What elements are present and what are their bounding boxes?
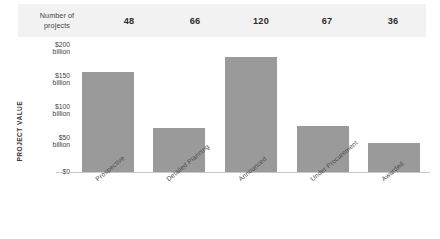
bar-slot <box>225 57 277 172</box>
plot-area: PROJECT VALUE $200billion$150billion$100… <box>0 40 440 239</box>
y-axis-tick-unit: billion <box>26 110 70 118</box>
project-count-row-label: Number of projects <box>18 11 96 29</box>
y-axis-tick-200: $200billion <box>26 41 70 56</box>
project-count-under-procurement: 67 <box>294 16 360 26</box>
project-count-header-band: Number of projects 48 66 120 67 36 <box>18 4 426 37</box>
y-axis-tick-150: $150billion <box>26 72 70 87</box>
y-axis-tick-amount: $150 <box>26 72 70 80</box>
y-axis-tick-amount: $200 <box>26 41 70 49</box>
chart-screenshot: Number of projects 48 66 120 67 36 PROJE… <box>0 0 440 239</box>
y-axis-tick-unit: billion <box>26 79 70 87</box>
y-axis-tick-50: $50billion <box>26 134 70 149</box>
y-axis-tick-labels: $200billion$150billion$100billion$50bill… <box>0 40 70 239</box>
project-count-row-label-line2: projects <box>18 21 96 30</box>
y-axis-tick-unit: billion <box>26 48 70 56</box>
project-count-detailed-planning: 66 <box>162 16 228 26</box>
bar-prospective[interactable] <box>82 72 134 172</box>
y-axis-tick-100: $100billion <box>26 103 70 118</box>
project-count-awarded: 36 <box>360 16 426 26</box>
y-axis-tick-amount: $50 <box>26 134 70 142</box>
y-axis-tick-amount: $100 <box>26 103 70 111</box>
project-count-row-label-line1: Number of <box>18 11 96 20</box>
bars-canvas: ProspectiveDetailed PlanningAnnouncedUnd… <box>72 40 430 239</box>
bar-announced[interactable] <box>225 57 277 172</box>
project-count-prospective: 48 <box>96 16 162 26</box>
bar-slot <box>82 72 134 172</box>
y-axis-tick-unit: billion <box>26 141 70 149</box>
project-count-announced: 120 <box>228 16 294 26</box>
